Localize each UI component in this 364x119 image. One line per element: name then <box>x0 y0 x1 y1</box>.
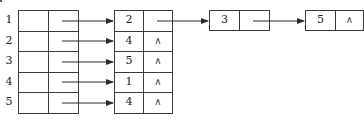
vertex-data-cell-1 <box>18 10 49 32</box>
vertex-pointer-cell-3 <box>48 51 79 73</box>
vertex-data-cell-4 <box>18 72 49 93</box>
null-pointer-icon: ∧ <box>143 31 173 52</box>
edge-node-value: 4 <box>114 92 144 114</box>
vertex-pointer-cell-5 <box>48 92 79 114</box>
vertex-pointer-cell-2 <box>48 31 79 52</box>
edge-node-value: 5 <box>305 10 336 31</box>
edge-node-value: 1 <box>114 72 144 93</box>
vertex-data-cell-2 <box>18 31 49 52</box>
vertex-label-1: 1 <box>3 10 15 30</box>
vertex-pointer-cell-1 <box>48 10 79 32</box>
edge-node-value: 2 <box>114 10 144 32</box>
vertex-label-3: 3 <box>3 51 15 71</box>
null-pointer-icon: ∧ <box>143 72 173 93</box>
null-pointer-icon: ∧ <box>143 92 173 114</box>
vertex-label-5: 5 <box>3 92 15 112</box>
cropped-title-fragment <box>0 0 2 2</box>
edge-node-value: 5 <box>114 51 144 73</box>
edge-node-next-pointer <box>239 10 270 31</box>
null-pointer-icon: ∧ <box>335 10 364 31</box>
edge-node-value: 3 <box>209 10 240 31</box>
vertex-label-4: 4 <box>3 72 15 92</box>
vertex-data-cell-5 <box>18 92 49 114</box>
edge-node-value: 4 <box>114 31 144 52</box>
null-pointer-icon: ∧ <box>143 51 173 73</box>
vertex-label-2: 2 <box>3 31 15 51</box>
vertex-pointer-cell-4 <box>48 72 79 93</box>
vertex-data-cell-3 <box>18 51 49 73</box>
edge-node-next-pointer <box>143 10 173 32</box>
